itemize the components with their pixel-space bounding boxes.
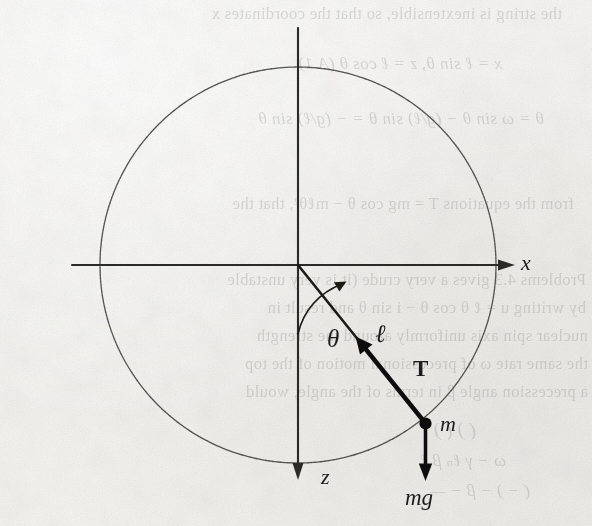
- x-axis-label: x: [521, 252, 531, 274]
- z-axis-label: z: [321, 466, 330, 488]
- z-axis-arrowhead: [293, 463, 304, 480]
- length-label: ℓ: [375, 321, 385, 346]
- pendulum-figure: [0, 0, 592, 526]
- weight-vector: [419, 426, 432, 481]
- x-axis: [72, 260, 515, 271]
- weight-label: mg: [405, 486, 433, 509]
- tension-label: T: [413, 357, 428, 380]
- x-axis-arrowhead: [498, 260, 515, 271]
- z-axis: [293, 28, 304, 480]
- mass-label: m: [440, 413, 456, 435]
- scanned-page: the string is inextensible, so that the …: [0, 0, 592, 526]
- weight-arrowhead: [419, 464, 432, 482]
- angle-label: θ: [327, 326, 339, 351]
